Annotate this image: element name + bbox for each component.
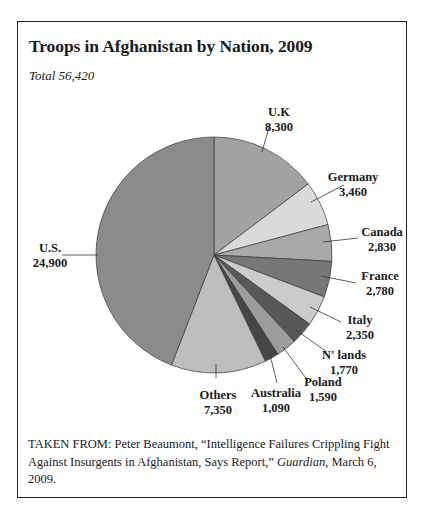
slice-label-name: Others [200, 388, 237, 402]
slice-label-value: 2,780 [366, 284, 394, 298]
slice-label-name: France [361, 269, 399, 283]
slice-label-name: N' lands [322, 348, 366, 362]
slice-label-name: Italy [348, 313, 374, 327]
slice-label-name: Australia [251, 386, 302, 400]
slice-label-name: Canada [361, 225, 403, 239]
slice-label-value: 8,300 [265, 120, 293, 134]
slice-label-name: Germany [328, 170, 379, 184]
slice-label-value: 3,460 [339, 185, 367, 199]
slice-label-value: 2,830 [368, 240, 396, 254]
slice-label-value: 7,350 [204, 403, 232, 417]
slice-label-value: 24,900 [33, 256, 67, 270]
slice-label-value: 1,090 [262, 401, 290, 415]
slice-label-name: U.K [268, 105, 290, 119]
source-publication: Guardian [277, 455, 325, 469]
source-citation: TAKEN FROM: Peter Beaumont, “Intelligenc… [28, 436, 398, 489]
pie-slices [96, 137, 332, 373]
slice-label-name: U.S. [39, 241, 61, 255]
callout-line [270, 355, 277, 383]
slice-label-value: 2,350 [346, 328, 374, 342]
slice-label-name: Poland [304, 375, 342, 389]
slice-label-value: 1,590 [309, 390, 337, 404]
